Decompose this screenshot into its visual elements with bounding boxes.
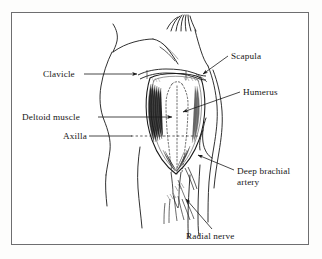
figure-border — [11, 12, 309, 245]
label-axilla: Axilla — [63, 131, 87, 142]
anatomy-figure: Clavicle Deltoid muscle Axilla Scapula H… — [0, 0, 322, 259]
label-radial-nerve: Radial nerve — [186, 231, 234, 242]
label-deep-brachial-artery-line2: artery — [237, 177, 259, 187]
label-deltoid-muscle: Deltoid muscle — [22, 112, 80, 123]
label-deep-brachial-artery: Deep brachial artery — [237, 166, 311, 187]
label-deep-brachial-artery-line1: Deep brachial — [237, 166, 290, 176]
label-scapula: Scapula — [231, 51, 261, 62]
label-clavicle: Clavicle — [43, 69, 75, 80]
label-humerus: Humerus — [243, 87, 278, 98]
